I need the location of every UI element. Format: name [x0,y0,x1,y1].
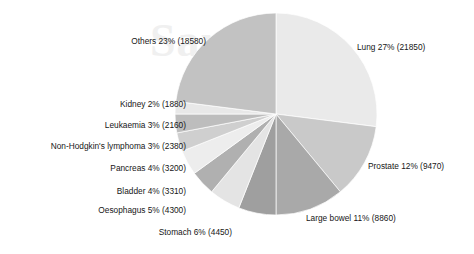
pie-label-others: Others 23% (18580) [38,36,206,46]
pie-label-bladder: Bladder 4% (3310) [18,186,186,196]
pie-label-kidney: Kidney 2% (1880) [18,99,186,109]
pie-label-lung: Lung 27% (21850) [357,42,425,52]
pie-label-leukaemia: Leukaemia 3% (2160) [18,120,186,130]
pie-label-stomach: Stomach 6% (4450) [64,227,232,237]
pie-chart: Sample Lung 27% (21850) Prostate 12% (94… [0,0,474,254]
pie-label-prostate: Prostate 12% (9470) [368,161,444,171]
pie-label-pancreas: Pancreas 4% (3200) [18,163,186,173]
pie-label-non-hodgkin-lymphoma: Non-Hodgkin's lymphoma 3% (2380) [2,141,186,151]
pie-label-oesophagus: Oesophagus 5% (4300) [18,205,186,215]
pie-slice-others [176,13,276,114]
pie-slice-lung [276,13,377,127]
pie-label-large-bowel: Large bowel 11% (8860) [306,213,396,223]
